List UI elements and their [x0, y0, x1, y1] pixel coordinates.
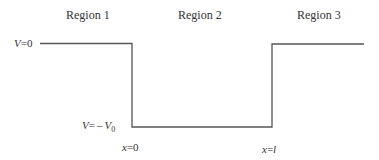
x-l-label: x=l: [261, 143, 276, 155]
x-zero-label: x=0: [121, 141, 139, 153]
potential-profile-line: [40, 44, 364, 128]
v-minus-v0-label: V=–V0: [82, 119, 115, 134]
potential-well-diagram: Region 1 Region 2 Region 3 V=0 V=–V0 x=0…: [0, 0, 379, 160]
region-3-label: Region 3: [297, 8, 341, 22]
v-zero-label: V=0: [14, 37, 33, 49]
region-1-label: Region 1: [66, 8, 110, 22]
region-2-label: Region 2: [178, 8, 222, 22]
